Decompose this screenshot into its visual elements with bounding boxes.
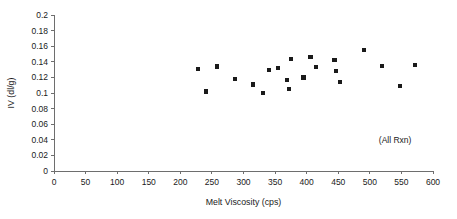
x-tick-label: 300 [236, 177, 250, 187]
data-point [380, 64, 384, 68]
y-tick-label: 0.06 [31, 119, 48, 129]
x-tick-label: 0 [52, 177, 57, 187]
y-tick-label: 0.12 [31, 72, 48, 82]
x-tick-label: 550 [394, 177, 408, 187]
y-tick-label: 0.16 [31, 41, 48, 51]
data-point [287, 87, 291, 91]
scatter-chart: 00.020.040.060.080.10.120.140.160.180.2 … [0, 0, 457, 219]
data-point [362, 48, 366, 52]
y-tick-label: 0.08 [31, 104, 48, 114]
y-tick-label: 0.02 [31, 150, 48, 160]
data-point-markers [196, 48, 417, 95]
x-axis-title: Melt Viscosity (cps) [206, 197, 282, 207]
data-point [334, 69, 338, 73]
x-tick-label: 400 [300, 177, 314, 187]
x-tick-label: 50 [81, 177, 91, 187]
data-point [338, 80, 342, 84]
x-tick-label: 150 [142, 177, 156, 187]
y-axis-title: IV (dl/g) [6, 78, 16, 109]
y-tick-label: 0.1 [36, 88, 48, 98]
y-tick-label: 0.04 [31, 135, 48, 145]
x-tick-label: 450 [331, 177, 345, 187]
data-point [267, 68, 271, 72]
data-point [215, 64, 219, 68]
data-point [285, 78, 289, 82]
data-point [314, 65, 318, 69]
data-point [413, 63, 417, 67]
y-tick-label: 0 [43, 166, 48, 176]
y-axis-tick-labels: 00.020.040.060.080.10.120.140.160.180.2 [31, 10, 48, 176]
x-tick-label: 100 [110, 177, 124, 187]
chart-annotations: (All Rxn) [379, 135, 412, 145]
y-tick-label: 0.18 [31, 26, 48, 36]
data-point [251, 82, 255, 86]
data-point [276, 66, 280, 70]
data-point [289, 57, 293, 61]
y-tick-label: 0.14 [31, 57, 48, 67]
data-point [204, 89, 208, 93]
data-point [398, 84, 402, 88]
data-point [233, 77, 237, 81]
data-point [301, 75, 305, 79]
x-tick-label: 200 [173, 177, 187, 187]
x-tick-label: 250 [205, 177, 219, 187]
y-tick-label: 0.2 [36, 10, 48, 20]
data-point [261, 91, 265, 95]
data-point [196, 67, 200, 71]
annotation-label: (All Rxn) [379, 135, 412, 145]
x-tick-label: 350 [268, 177, 282, 187]
data-point [308, 55, 312, 59]
x-tick-label: 500 [363, 177, 377, 187]
chart-canvas: 00.020.040.060.080.10.120.140.160.180.2 … [0, 0, 457, 219]
data-point [332, 58, 336, 62]
x-tick-label: 600 [426, 177, 440, 187]
x-axis-tick-labels: 050100150200250300350400450500550600 [52, 177, 441, 187]
